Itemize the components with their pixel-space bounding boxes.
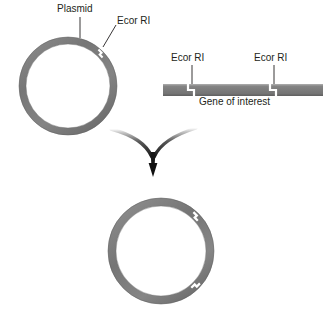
plasmid-ring-bottom-inner-edge <box>116 206 206 296</box>
arrow-head <box>149 163 158 177</box>
arrow-branch-right <box>154 128 196 157</box>
label-ecor-ri-plasmid: Ecor RI <box>117 15 150 26</box>
label-gene-of-interest: Gene of interest <box>199 96 270 107</box>
diagram-canvas <box>0 0 328 322</box>
converging-arrow <box>111 128 196 177</box>
cloning-diagram: Plasmid Ecor RI Ecor RI Ecor RI Gene of … <box>0 0 328 322</box>
plasmid-ring-top-group <box>19 37 117 135</box>
label-ecor-ri-gene-right: Ecor RI <box>254 52 287 63</box>
plasmid-ring-bottom-group <box>108 198 214 304</box>
arrow-branch-left <box>111 129 152 157</box>
label-plasmid: Plasmid <box>57 3 93 14</box>
linear-dna-fragment-group <box>163 84 323 96</box>
label-ecor-ri-gene-left: Ecor RI <box>171 52 204 63</box>
plasmid-ring-top-inner-edge <box>26 44 110 128</box>
leader-line-ecor-ri-plasmid <box>103 25 116 47</box>
